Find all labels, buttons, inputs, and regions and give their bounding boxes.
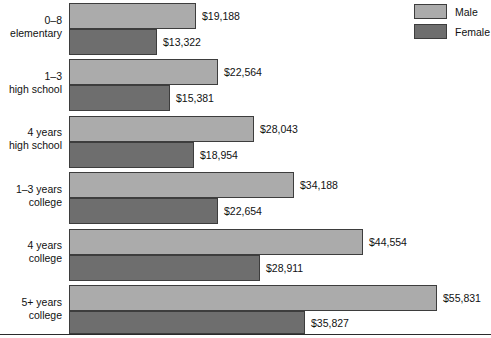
bar-male (69, 172, 294, 198)
bar-female (69, 198, 218, 224)
axis-baseline (0, 334, 491, 335)
legend-item-male: Male (414, 4, 478, 19)
category-label: 1–3 high school (0, 70, 62, 95)
bar-female (69, 29, 157, 55)
category-label: 5+ years college (0, 296, 62, 321)
category-label: 1–3 years college (0, 183, 62, 208)
legend: Male Female (414, 0, 491, 42)
bar-male (69, 116, 254, 142)
bar-male (69, 229, 363, 255)
bar-female (69, 311, 305, 334)
bar-male (69, 3, 196, 29)
bar-value-label: $22,564 (224, 66, 262, 78)
bar-value-label: $15,381 (176, 92, 214, 104)
category-label: 0–8 elementary (0, 14, 62, 39)
bar-chart: 0–8 elementary 1–3 high school 4 years h… (0, 0, 491, 338)
bar-value-label: $28,043 (260, 123, 298, 135)
legend-swatch-female-icon (414, 24, 447, 39)
bar-value-label: $28,911 (266, 262, 303, 274)
category-label: 4 years college (0, 239, 62, 264)
bar-value-label: $44,554 (369, 236, 407, 248)
bar-male (69, 285, 437, 311)
bar-female (69, 142, 194, 168)
bar-female (69, 85, 170, 111)
bar-value-label: $13,322 (163, 36, 201, 48)
bar-value-label: $18,954 (200, 149, 238, 161)
legend-swatch-male-icon (414, 4, 447, 19)
bar-value-label: $34,188 (300, 179, 338, 191)
legend-label: Male (455, 6, 478, 18)
legend-label: Female (455, 26, 490, 38)
bar-value-label: $22,654 (224, 205, 262, 217)
bar-male (69, 59, 218, 85)
category-label: 4 years high school (0, 126, 62, 151)
bar-female (69, 255, 260, 281)
legend-item-female: Female (414, 24, 490, 39)
bar-value-label: $55,831 (443, 292, 481, 304)
bar-value-label: $19,188 (202, 10, 240, 22)
bar-value-label: $35,827 (311, 317, 349, 329)
